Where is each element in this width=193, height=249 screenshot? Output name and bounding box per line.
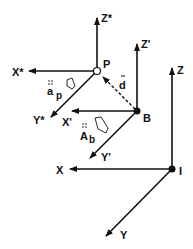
label-z: Z <box>177 64 184 76</box>
frame-p: P Z* X* Y* a p <box>12 12 113 126</box>
accel-b-annotation: A b <box>80 117 108 145</box>
label-d: d <box>119 79 126 91</box>
label-x-prime: X' <box>62 116 72 128</box>
y-axis <box>106 169 172 236</box>
origin-b-marker <box>134 108 141 115</box>
label-p: P <box>103 58 110 70</box>
label-x-star: X* <box>12 66 24 78</box>
label-capital-a: A <box>80 130 88 142</box>
label-i: I <box>179 165 182 177</box>
label-y-star: Y* <box>33 114 45 126</box>
label-x: X <box>56 164 64 176</box>
label-y: Y <box>120 229 128 241</box>
coordinate-frames-diagram: P Z* X* Y* a p B Z' X' Y' d A <box>0 0 193 249</box>
rotation-marker-icon <box>67 78 75 89</box>
frame-b: B Z' X' Y' d A b <box>62 38 151 163</box>
label-y-prime: Y' <box>101 151 111 163</box>
label-z-star: Z* <box>101 12 113 24</box>
rotation-marker-icon <box>95 117 108 133</box>
label-a: a <box>47 85 54 97</box>
label-z-prime: Z' <box>141 38 151 50</box>
vector-d-label: d <box>119 76 126 91</box>
label-a-sub-b: b <box>89 134 95 145</box>
label-b: B <box>143 112 151 124</box>
origin-i-marker <box>169 166 176 173</box>
label-a-sub-p: p <box>56 90 62 101</box>
origin-p-marker <box>94 68 101 75</box>
